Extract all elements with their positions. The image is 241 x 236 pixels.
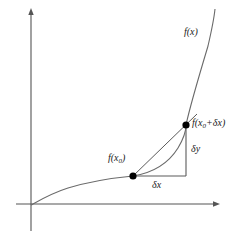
point-upper-marker xyxy=(182,121,189,128)
point-lower-marker xyxy=(129,172,136,179)
point-lower-label: f(x0) xyxy=(108,153,125,165)
function-curve xyxy=(31,9,215,205)
y-axis-arrowhead xyxy=(28,8,33,15)
point-lower-label-post: ) xyxy=(122,152,125,163)
x-axis-arrowhead xyxy=(213,201,220,206)
point-lower-label-pre: f(x xyxy=(108,152,119,163)
delta-x-label: δx xyxy=(152,180,161,190)
derivative-diagram: f(x) f(x0) f(x0+δx) δy δx xyxy=(0,0,241,236)
delta-y-label: δy xyxy=(191,144,200,154)
point-upper-label-pre: f(x xyxy=(192,117,203,128)
point-upper-label: f(x0+δx) xyxy=(192,118,225,130)
curve-label: f(x) xyxy=(184,27,198,37)
point-upper-label-post: +δx) xyxy=(206,117,225,128)
